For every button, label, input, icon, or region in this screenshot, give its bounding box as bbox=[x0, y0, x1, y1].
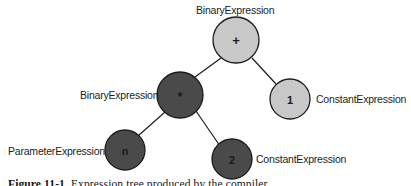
type-label-multiply-binary-expression: BinaryExpression bbox=[80, 89, 158, 101]
edge-multiply-to-parameter bbox=[138, 112, 165, 136]
expression-tree-diagram: + * 1 n 2 BinaryExpression BinaryExpress… bbox=[0, 0, 411, 186]
node-parameter-n[interactable]: n bbox=[105, 130, 145, 170]
node-value-root-add: + bbox=[232, 33, 240, 48]
node-value-constant-one: 1 bbox=[287, 94, 293, 106]
type-label-constant-one-constant-expression: ConstantExpression bbox=[316, 93, 406, 105]
type-label-root-binary-expression: BinaryExpression bbox=[196, 4, 274, 16]
type-label-constant-two-constant-expression: ConstantExpression bbox=[256, 153, 346, 165]
node-value-constant-two: 2 bbox=[229, 154, 235, 166]
node-constant-two[interactable]: 2 bbox=[212, 139, 252, 179]
node-multiply[interactable]: * bbox=[157, 72, 203, 118]
edge-root-to-multiply bbox=[195, 58, 221, 77]
figure-caption-text: Expression tree produced by the compiler bbox=[68, 178, 268, 186]
node-constant-one[interactable]: 1 bbox=[270, 79, 310, 119]
figure-caption-number: Figure 11-1. bbox=[8, 178, 68, 186]
node-root-add[interactable]: + bbox=[213, 17, 259, 63]
edge-root-to-constant-one bbox=[252, 58, 276, 84]
node-value-parameter-n: n bbox=[122, 145, 129, 157]
type-label-parameter-expression: ParameterExpression bbox=[8, 145, 105, 157]
edge-multiply-to-constant-two bbox=[196, 111, 220, 146]
figure-caption: Figure 11-1. Expression tree produced by… bbox=[8, 178, 267, 186]
